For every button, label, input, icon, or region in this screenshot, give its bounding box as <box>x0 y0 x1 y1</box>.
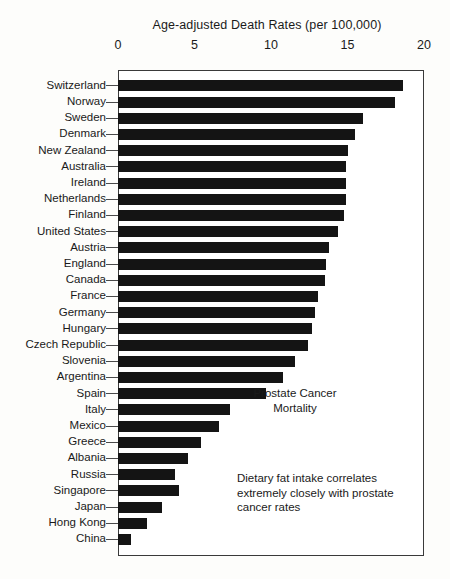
category-tick-mark <box>106 361 118 362</box>
category-label-china: China <box>0 532 106 544</box>
bar-row <box>118 94 424 110</box>
bar-netherlands <box>118 194 346 205</box>
bar-row <box>118 256 424 272</box>
category-label-spain: Spain <box>0 387 106 399</box>
category-tick-mark <box>106 118 118 119</box>
chart-subject-annotation: Prostate Cancer Mortality <box>253 386 336 415</box>
bar-slovenia <box>118 356 295 367</box>
bar-italy <box>118 404 230 415</box>
category-label-switzerland: Switzerland <box>0 79 106 91</box>
category-tick-mark <box>106 345 118 346</box>
bar-row <box>118 175 424 191</box>
category-label-denmark: Denmark <box>0 127 106 139</box>
category-label-norway: Norway <box>0 95 106 107</box>
category-label-germany: Germany <box>0 306 106 318</box>
bar-albania <box>118 453 188 464</box>
x-axis-tick-labels: 05101520 <box>0 38 450 54</box>
bar-mexico <box>118 421 219 432</box>
bar-row <box>118 224 424 240</box>
category-label-canada: Canada <box>0 273 106 285</box>
bar-england <box>118 259 326 270</box>
bar-hungary <box>118 323 312 334</box>
category-tick-mark <box>106 328 118 329</box>
category-tick-mark <box>106 85 118 86</box>
bar-row <box>118 78 424 94</box>
x-tick-label-5: 5 <box>191 38 198 52</box>
category-label-albania: Albania <box>0 451 106 463</box>
bar-russia <box>118 469 175 480</box>
bar-australia <box>118 161 346 172</box>
bar-finland <box>118 210 344 221</box>
bar-row <box>118 240 424 256</box>
bar-switzerland <box>118 80 403 91</box>
bar-france <box>118 291 318 302</box>
category-label-slovenia: Slovenia <box>0 354 106 366</box>
bar-row <box>118 126 424 142</box>
x-tick-label-10: 10 <box>264 38 278 52</box>
bar-ireland <box>118 178 346 189</box>
bar-singapore <box>118 485 179 496</box>
bar-row <box>118 418 424 434</box>
bar-row <box>118 110 424 126</box>
bar-canada <box>118 275 325 286</box>
bar-sweden <box>118 113 363 124</box>
bar-hong-kong <box>118 518 147 529</box>
category-tick-mark <box>106 296 118 297</box>
category-label-sweden: Sweden <box>0 111 106 123</box>
bar-norway <box>118 97 395 108</box>
category-tick-mark <box>106 409 118 410</box>
category-label-greece: Greece <box>0 435 106 447</box>
bar-row <box>118 531 424 547</box>
bar-argentina <box>118 372 283 383</box>
bar-row <box>118 191 424 207</box>
category-label-finland: Finland <box>0 208 106 220</box>
category-label-ireland: Ireland <box>0 176 106 188</box>
bar-row <box>118 337 424 353</box>
bar-row <box>118 143 424 159</box>
chart-title: Age-adjusted Death Rates (per 100,000) <box>114 18 420 32</box>
bar-row <box>118 434 424 450</box>
category-tick-mark <box>106 377 118 378</box>
category-tick-mark <box>106 150 118 151</box>
bar-row <box>118 272 424 288</box>
bar-china <box>118 534 131 545</box>
category-label-czech-republic: Czech Republic <box>0 338 106 350</box>
bar-row <box>118 353 424 369</box>
category-tick-mark <box>106 507 118 508</box>
category-tick-mark <box>106 102 118 103</box>
category-tick-mark <box>106 264 118 265</box>
bar-row <box>118 450 424 466</box>
category-label-australia: Australia <box>0 160 106 172</box>
category-label-mexico: Mexico <box>0 419 106 431</box>
category-label-new-zealand: New Zealand <box>0 144 106 156</box>
bar-denmark <box>118 129 355 140</box>
category-label-russia: Russia <box>0 468 106 480</box>
category-tick-mark <box>106 312 118 313</box>
category-axis-labels: SwitzerlandNorwaySwedenDenmarkNew Zealan… <box>0 70 106 556</box>
category-tick-mark <box>106 523 118 524</box>
category-tick-mark <box>106 231 118 232</box>
x-tick-label-15: 15 <box>341 38 355 52</box>
bar-austria <box>118 242 329 253</box>
x-tick-label-20: 20 <box>417 38 431 52</box>
chart-conclusion-annotation: Dietary fat intake correlates extremely … <box>237 471 394 515</box>
category-tick-mark <box>106 490 118 491</box>
bar-greece <box>118 437 201 448</box>
category-tick-mark <box>106 166 118 167</box>
bar-row <box>118 305 424 321</box>
bar-spain <box>118 388 266 399</box>
prostate-cancer-mortality-chart: Age-adjusted Death Rates (per 100,000) 0… <box>0 0 450 579</box>
bar-row <box>118 159 424 175</box>
category-tick-mark <box>106 199 118 200</box>
category-tick-mark <box>106 393 118 394</box>
category-label-singapore: Singapore <box>0 484 106 496</box>
category-label-austria: Austria <box>0 241 106 253</box>
category-label-netherlands: Netherlands <box>0 192 106 204</box>
category-label-france: France <box>0 289 106 301</box>
category-tick-mark <box>106 247 118 248</box>
bar-japan <box>118 502 162 513</box>
category-tick-mark <box>106 442 118 443</box>
bar-row <box>118 369 424 385</box>
category-tick-mark <box>106 474 118 475</box>
category-label-united-states: United States <box>0 225 106 237</box>
